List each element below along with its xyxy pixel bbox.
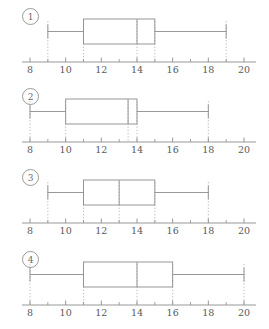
x-axis-tick-label: 10 bbox=[60, 307, 72, 318]
boxplot-panel: 18101214161820 bbox=[0, 0, 269, 80]
x-axis-tick-label: 12 bbox=[95, 307, 107, 318]
x-axis-tick-label: 12 bbox=[95, 144, 107, 155]
x-axis-tick-label: 16 bbox=[167, 144, 179, 155]
x-axis-tick-label: 12 bbox=[95, 225, 107, 236]
x-axis-tick-label: 14 bbox=[131, 144, 143, 155]
x-axis-tick-label: 14 bbox=[131, 307, 143, 318]
x-axis-tick-label: 14 bbox=[131, 225, 143, 236]
x-axis-tick-label: 8 bbox=[27, 225, 33, 236]
x-axis-tick-label: 20 bbox=[238, 64, 250, 75]
x-axis-tick-label: 18 bbox=[202, 225, 214, 236]
interquartile-box bbox=[84, 19, 155, 44]
x-axis-tick-label: 20 bbox=[238, 307, 250, 318]
x-axis-tick-label: 8 bbox=[27, 144, 33, 155]
x-axis-tick-label: 14 bbox=[131, 64, 143, 75]
x-axis-tick-label: 18 bbox=[202, 307, 214, 318]
x-axis-tick-label: 10 bbox=[60, 225, 72, 236]
boxplot-panel: 38101214161820 bbox=[0, 161, 269, 241]
x-axis-tick-label: 8 bbox=[27, 307, 33, 318]
x-axis-tick-label: 18 bbox=[202, 64, 214, 75]
boxplot-canvas: 8101214161820 bbox=[0, 80, 269, 160]
x-axis-tick-label: 16 bbox=[167, 64, 179, 75]
boxplot-canvas: 8101214161820 bbox=[0, 243, 269, 323]
x-axis-tick-label: 12 bbox=[95, 64, 107, 75]
boxplot-figure: 1810121416182028101214161820381012141618… bbox=[0, 0, 269, 329]
x-axis-tick-label: 10 bbox=[60, 144, 72, 155]
x-axis-tick-label: 16 bbox=[167, 307, 179, 318]
x-axis-tick-label: 10 bbox=[60, 64, 72, 75]
x-axis-tick-label: 8 bbox=[27, 64, 33, 75]
boxplot-canvas: 8101214161820 bbox=[0, 0, 269, 80]
interquartile-box bbox=[84, 262, 173, 287]
boxplot-canvas: 8101214161820 bbox=[0, 161, 269, 241]
boxplot-panel: 28101214161820 bbox=[0, 80, 269, 160]
boxplot-panel: 48101214161820 bbox=[0, 243, 269, 323]
interquartile-box bbox=[66, 99, 137, 124]
x-axis-tick-label: 20 bbox=[238, 144, 250, 155]
x-axis-tick-label: 18 bbox=[202, 144, 214, 155]
x-axis-tick-label: 16 bbox=[167, 225, 179, 236]
x-axis-tick-label: 20 bbox=[238, 225, 250, 236]
